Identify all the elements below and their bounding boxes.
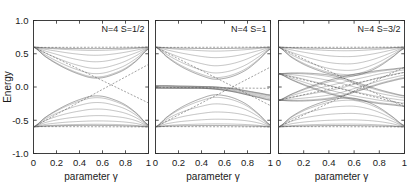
x-tick-label: 0 [31,157,36,168]
energy-level-curve [156,119,271,127]
energy-level-curve [279,120,405,127]
x-tick-label: 1 [146,157,151,168]
energy-level-curve [156,47,271,66]
x-axis-title: parameter γ [186,171,239,182]
panel-1-curves [34,47,149,127]
panel-1: 00.20.40.60.811.00.50.0-0.5-1.0parameter… [12,15,151,182]
x-tick-label: 0.8 [241,157,254,168]
energy-level-curve [279,106,405,127]
energy-level-curve [156,47,271,78]
panel-2-curves [156,47,271,127]
x-tick-label: 0 [153,157,158,168]
y-tick-label: 1.0 [15,15,28,26]
y-tick-label: -1.0 [12,148,28,159]
x-tick-label: 0.2 [50,157,63,168]
energy-level-curve [34,47,149,55]
energy-level-curve [34,103,149,127]
y-tick-label: 0.5 [15,48,28,59]
x-tick-label: 0.4 [73,157,86,168]
x-tick-label: 0.6 [96,157,109,168]
x-tick-label: 0.4 [195,157,208,168]
dashed-guide-line [34,64,149,127]
x-tick-label: 0.2 [297,157,310,168]
panel-3-curves [279,47,405,127]
energy-level-curve [34,96,149,127]
x-tick-label: 0.2 [172,157,185,168]
y-tick-label: 0.0 [15,81,28,92]
x-axis-title: parameter γ [315,171,368,182]
energy-level-curve [156,95,271,127]
y-axis-title: Energy [2,71,13,103]
energy-level-curve [156,104,271,127]
energy-level-curve [156,112,271,127]
dashed-guide-line [34,47,149,103]
figure-canvas: 00.20.40.60.811.00.50.0-0.5-1.0parameter… [0,0,412,191]
x-tick-label: 0.6 [347,157,360,168]
panel-label: N=4 S=3/2 [357,24,400,34]
x-tick-label: 1 [268,157,273,168]
panel-frame [279,21,405,154]
x-tick-label: 0.8 [119,157,132,168]
energy-spectrum-figure: 00.20.40.60.811.00.50.0-0.5-1.0parameter… [0,0,412,191]
x-axis-title: parameter γ [64,171,117,182]
x-tick-label: 1 [402,157,407,168]
x-tick-label: 0.8 [373,157,386,168]
panel-frame [34,21,149,154]
panel-2: 00.20.40.60.81parameter γN=4 S=1 [153,21,273,182]
x-tick-label: 0 [276,157,281,168]
panel-label: N=4 S=1 [231,24,267,34]
x-tick-label: 0.6 [218,157,231,168]
dashed-guide-line [279,74,405,105]
panel-label: N=4 S=1/2 [101,24,144,34]
y-tick-label: -0.5 [12,115,28,126]
x-tick-label: 0.4 [322,157,335,168]
